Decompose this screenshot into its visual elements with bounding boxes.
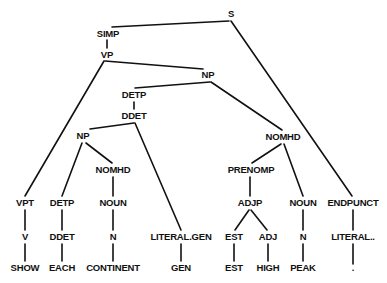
node-prenomp: PRENOMP: [228, 164, 275, 175]
edge-np-detp-low: [62, 143, 82, 196]
tree-nodes: S SIMP VP NP DETP DDET NP NOMHD NOMHD PR…: [11, 8, 379, 273]
edge-adjp-est: [235, 210, 249, 230]
node-simp: SIMP: [97, 28, 120, 39]
edge-vp-np: [105, 61, 203, 69]
node-np-top: NP: [202, 69, 216, 80]
node-adj: ADJ: [259, 231, 277, 242]
node-literal-gen: LITERAL.GEN: [150, 231, 211, 242]
edge-ddet-np: [90, 123, 134, 129]
node-n-left: N: [110, 231, 117, 242]
edge-nomhd-prenomp: [252, 144, 281, 163]
node-noun-left: NOUN: [99, 197, 127, 208]
edge-adjp-adj: [251, 210, 267, 230]
edge-np-nomhd-left: [86, 143, 112, 163]
node-nomhd-right: NOMHD: [266, 131, 301, 142]
node-v: V: [22, 231, 29, 242]
edge-ddet-literalgen: [135, 123, 181, 230]
word-high: HIGH: [257, 262, 280, 273]
word-est: EST: [225, 262, 243, 273]
node-vp: VP: [101, 49, 114, 60]
node-s: S: [228, 8, 234, 19]
node-literal-punct: LITERAL..: [331, 231, 375, 242]
node-endpunct: ENDPUNCT: [327, 197, 379, 208]
parse-tree-diagram: S SIMP VP NP DETP DDET NP NOMHD NOMHD PR…: [0, 0, 387, 283]
edge-s-simp: [112, 21, 229, 27]
node-noun-right: NOUN: [289, 197, 317, 208]
word-continent: CONTINENT: [86, 262, 140, 273]
node-ddet-low: DDET: [49, 231, 74, 242]
word-each: EACH: [49, 262, 75, 273]
tree-edges: [25, 21, 353, 264]
node-adjp: ADJP: [238, 197, 263, 208]
word-period: .: [352, 262, 354, 273]
word-show: SHOW: [11, 262, 40, 273]
node-detp-low: DETP: [50, 197, 75, 208]
node-detp-top: DETP: [122, 89, 147, 100]
node-n-right: N: [300, 231, 307, 242]
word-peak: PEAK: [290, 262, 316, 273]
word-gen: GEN: [171, 262, 191, 273]
node-est-cat: EST: [225, 231, 243, 242]
edge-np-detp: [135, 82, 210, 88]
node-vpt: VPT: [16, 197, 34, 208]
edge-np-nomhd: [211, 82, 282, 130]
node-np-low: NP: [77, 130, 91, 141]
node-nomhd-left: NOMHD: [96, 164, 131, 175]
edge-nomhd-noun-right: [284, 144, 303, 196]
node-ddet-top: DDET: [121, 110, 146, 121]
tree-svg: S SIMP VP NP DETP DDET NP NOMHD NOMHD PR…: [0, 0, 387, 283]
